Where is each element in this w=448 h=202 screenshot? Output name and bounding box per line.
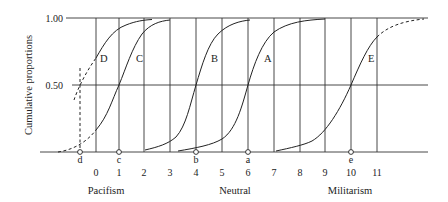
curve-c-label: C [136, 53, 143, 64]
svg-text:8: 8 [298, 167, 303, 178]
svg-text:1: 1 [117, 167, 122, 178]
curve-b-label: B [211, 53, 218, 64]
svg-text:9: 9 [323, 167, 328, 178]
point-d-label: d [78, 154, 83, 165]
curve-c [96, 20, 170, 130]
svg-text:2: 2 [142, 167, 147, 178]
point-b-label: b [194, 154, 199, 165]
svg-text:3: 3 [168, 167, 173, 178]
svg-text:11: 11 [372, 167, 382, 178]
x-tick-labels: 0 1 2 3 4 5 6 7 8 9 10 11 [94, 167, 382, 178]
curve-e-label: E [368, 53, 374, 64]
curve-c-dashed [58, 130, 96, 152]
region-label-pacifism: Pacifism [88, 185, 125, 196]
curve-d-label: D [100, 53, 108, 64]
svg-text:0: 0 [94, 167, 99, 178]
svg-text:5: 5 [220, 167, 225, 178]
region-label-militarism: Militarism [328, 185, 372, 196]
curve-e-dashed [377, 19, 424, 37]
svg-text:6: 6 [246, 167, 251, 178]
point-c-label: c [117, 154, 122, 165]
curve-e [276, 37, 377, 151]
svg-text:4: 4 [194, 167, 199, 178]
y-axis-label: Cumulative proportions [23, 35, 34, 135]
y-tick-1-00: 1.00 [46, 13, 64, 24]
point-a-label: a [246, 154, 251, 165]
y-tick-0-50: 0.50 [46, 80, 64, 91]
curve-d-dashed [74, 58, 96, 100]
region-label-neutral: Neutral [219, 185, 251, 196]
point-e-label: e [349, 154, 354, 165]
cumulative-proportions-chart: d c b a e D C B A E 1.00 0.50 Cumulative… [0, 0, 448, 202]
curve-a-label: A [264, 53, 272, 64]
svg-text:10: 10 [346, 167, 356, 178]
svg-text:7: 7 [272, 167, 277, 178]
